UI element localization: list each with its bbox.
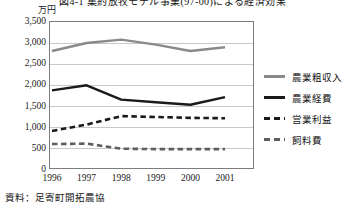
series-line-農業経費	[52, 85, 225, 104]
legend-item: 農業粗収入	[264, 66, 344, 87]
legend-swatch-icon	[264, 71, 285, 82]
legend-item-label: 農業経費	[292, 91, 332, 105]
x-axis-tick-label: 2001	[205, 173, 245, 183]
series-line-農業粗収入	[52, 40, 225, 51]
y-axis-tick-label: 1,500	[2, 101, 46, 111]
y-axis-tick-label: 500	[2, 143, 46, 153]
chart-legend: 農業粗収入農業経費営業利益飼料費	[264, 66, 344, 150]
y-axis-tick-label: 3,500	[2, 16, 46, 26]
y-axis-tick-label: 2,000	[2, 79, 46, 89]
y-axis-tick-label: 1,000	[2, 122, 46, 132]
legend-item-label: 営業利益	[292, 112, 332, 126]
chart-series-layer	[49, 21, 254, 169]
series-line-営業利益	[52, 116, 225, 131]
legend-swatch-icon	[264, 113, 285, 124]
legend-item: 営業利益	[264, 108, 344, 129]
legend-item-label: 飼料費	[292, 133, 322, 147]
x-axis: 199619971998199920002001	[49, 173, 254, 187]
legend-item: 農業経費	[264, 87, 344, 108]
legend-item-label: 農業粗収入	[292, 70, 342, 84]
series-line-飼料費	[52, 144, 225, 149]
legend-swatch-icon	[264, 134, 285, 145]
y-axis-tick-label: 3,000	[2, 37, 46, 47]
legend-swatch-icon	[264, 92, 285, 103]
source-note: 資料：足寄町開拓農協	[5, 190, 105, 204]
y-axis-tick-label: 2,500	[2, 58, 46, 68]
legend-item: 飼料費	[264, 129, 344, 150]
